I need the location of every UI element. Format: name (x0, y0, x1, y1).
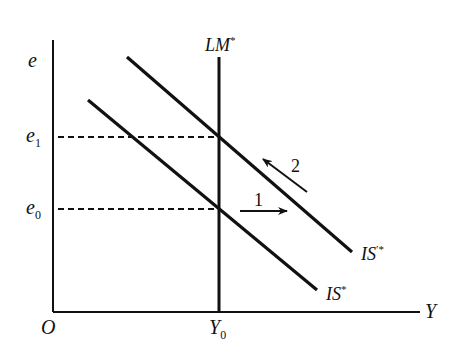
origin-label: O (41, 316, 55, 338)
is-star-label: IS* (325, 283, 347, 304)
arrow-2 (263, 159, 307, 192)
e1-label: e1 (26, 124, 41, 150)
is-prime-star-label: IS′* (360, 243, 384, 264)
arrow-1-label: 1 (254, 190, 263, 210)
x-axis-label: Y (425, 300, 438, 322)
e0-label: e0 (26, 196, 41, 222)
is-lm-diagram: e Y O e1 e0 LM* Y0 IS* IS′* 1 2 (0, 0, 463, 361)
is-star-curve (88, 100, 317, 290)
y0-label: Y0 (209, 316, 226, 342)
is-prime-star-curve (127, 57, 352, 252)
y-axis-label: e (28, 49, 37, 71)
arrow-2-label: 2 (291, 156, 300, 176)
lm-star-label: LM* (204, 34, 236, 55)
